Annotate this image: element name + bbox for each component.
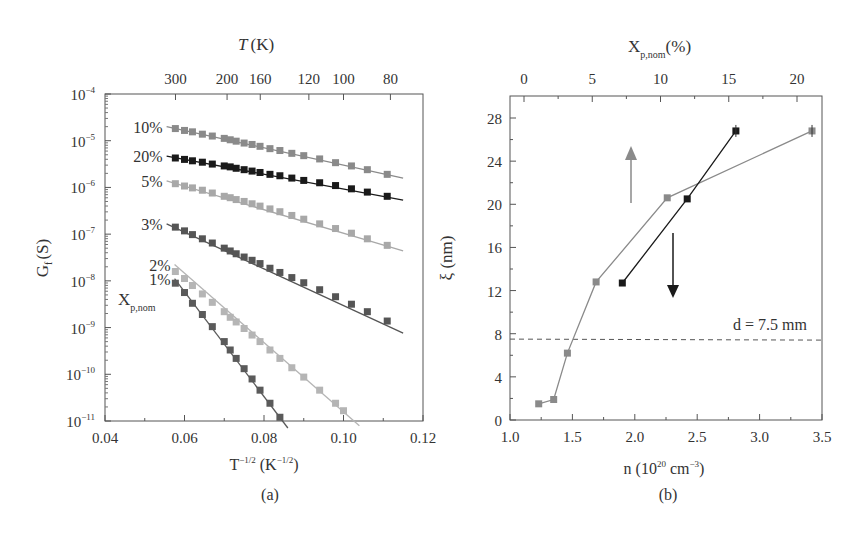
x-tick-label: 1.0 (501, 429, 520, 445)
series-label: 5% (141, 173, 162, 190)
data-point (348, 301, 355, 308)
data-point (241, 166, 248, 173)
data-point (332, 400, 339, 407)
data-point (266, 145, 273, 152)
data-point (276, 355, 283, 362)
data-point (288, 364, 295, 371)
series-label: 1% (149, 271, 170, 288)
series-label: 3% (141, 216, 162, 233)
data-point (199, 311, 206, 318)
series-label: 10% (133, 119, 162, 136)
data-point (209, 299, 216, 306)
panel-a-x-axis-label: T−1/2(K−1/2) (229, 455, 298, 474)
data-point (364, 308, 371, 315)
data-point (316, 220, 323, 227)
data-point (209, 323, 216, 330)
y-tick-label: 12 (487, 284, 502, 300)
data-point (276, 147, 283, 154)
data-point (316, 155, 323, 162)
top-tick-label: 200 (216, 71, 239, 87)
data-point (221, 162, 228, 169)
data-point (288, 212, 295, 219)
data-point (241, 140, 248, 147)
top-tick-label: 300 (164, 71, 187, 87)
data-point (241, 325, 248, 332)
data-point (288, 175, 295, 182)
data-point (172, 125, 179, 132)
y-tick-label: 10−8 (70, 272, 95, 290)
data-point (384, 193, 391, 200)
data-point (249, 257, 256, 264)
panel-a-chart: 0.040.060.080.100.123002001601201008010−… (33, 35, 436, 504)
y-tick-label: 10−7 (70, 225, 95, 243)
y-tick-label: 20 (487, 197, 502, 213)
y-tick-label: 0 (495, 413, 503, 429)
data-point (364, 189, 371, 196)
data-point (664, 194, 671, 201)
data-point (276, 269, 283, 276)
data-point (221, 245, 228, 252)
panel-b-series (535, 125, 815, 407)
data-point (189, 282, 196, 289)
data-point (209, 190, 216, 197)
panel-a-y-axis-label: Gf(S) (33, 239, 54, 277)
data-point (348, 162, 355, 169)
data-point (332, 293, 339, 300)
data-point (199, 159, 206, 166)
data-point (550, 396, 557, 403)
data-point (249, 168, 256, 175)
data-point (181, 183, 188, 190)
data-point (209, 133, 216, 140)
data-point (249, 375, 256, 382)
data-point (227, 136, 234, 143)
data-point (189, 184, 196, 191)
data-point (227, 346, 234, 353)
top-tick-label: 10 (653, 71, 668, 87)
data-point (221, 193, 228, 200)
panel-b-y-axis-label: ξ (nm) (437, 236, 456, 281)
y-tick-label: 8 (495, 327, 503, 343)
data-point (189, 128, 196, 135)
data-point (181, 227, 188, 234)
y-tick-label: 10−11 (66, 412, 95, 430)
data-point (348, 185, 355, 192)
arrow-up-icon (625, 146, 637, 203)
panel-a-caption: (a) (261, 486, 279, 504)
x-tick-label: 0.10 (330, 430, 356, 446)
data-point (172, 180, 179, 187)
data-point (209, 240, 216, 247)
y-tick-label: 16 (487, 240, 503, 256)
data-point (384, 171, 391, 178)
data-point (181, 127, 188, 134)
top-tick-label: 120 (298, 71, 321, 87)
data-point (288, 274, 295, 281)
data-point (199, 187, 206, 194)
data-point (300, 374, 307, 381)
x-tick-label: 0.04 (92, 430, 119, 446)
data-point (199, 131, 206, 138)
x-tick-label: 2.0 (625, 429, 644, 445)
x-tick-label: 3.5 (813, 429, 832, 445)
data-point (257, 143, 264, 150)
series-black (619, 127, 740, 286)
data-point (300, 279, 307, 286)
data-point (181, 289, 188, 296)
panel-a-series (167, 125, 404, 428)
data-point (241, 365, 248, 372)
data-point (249, 200, 256, 207)
y-tick-label: 10−9 (70, 319, 95, 337)
data-point (181, 156, 188, 163)
data-point (300, 152, 307, 159)
data-point (288, 150, 295, 157)
data-point (233, 355, 240, 362)
x-tick-label: 1.5 (563, 429, 582, 445)
panel-b-axis-ticks: 1.01.52.02.53.03.5048121620242805101520 (487, 71, 831, 445)
data-point (221, 135, 228, 142)
x-tick-label: 0.08 (251, 430, 277, 446)
panel-b-plot-frame (510, 96, 822, 420)
data-point (249, 141, 256, 148)
x-tick-label: 0.12 (410, 430, 436, 446)
x-tick-label: 3.0 (750, 429, 769, 445)
data-point (332, 225, 339, 232)
top-tick-label: 0 (520, 71, 528, 87)
